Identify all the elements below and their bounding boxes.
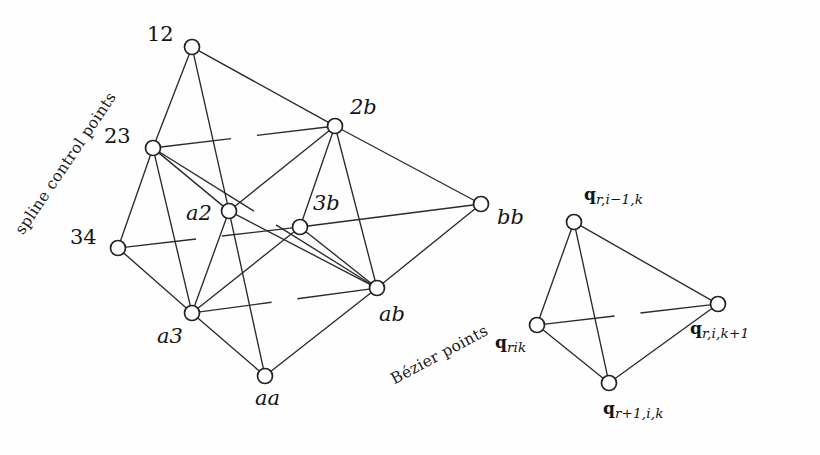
node-a2	[222, 204, 237, 219]
node-label-34: 34	[70, 227, 97, 248]
node-bb	[474, 197, 489, 212]
lbl-q-top: qr,i−1,k	[584, 186, 643, 203]
node-label-a2: a2	[186, 203, 212, 224]
node-12	[185, 40, 200, 55]
node-label-12: 12	[147, 24, 174, 45]
node-ab	[370, 281, 385, 296]
node-label-ab: ab	[379, 304, 405, 325]
lbl-q-bottom: qr+1,i,k	[603, 400, 664, 417]
node-aa	[258, 369, 273, 384]
node-ql	[530, 318, 545, 333]
figure-root: spline control points Bézier points 1223…	[0, 0, 820, 455]
node-label-bb: bb	[497, 207, 524, 228]
node-qb	[602, 376, 617, 391]
node-label-a3: a3	[157, 326, 183, 347]
node-2b	[328, 119, 343, 134]
node-label-aa: aa	[255, 388, 280, 409]
bezier-tetrahedron-nodes	[530, 215, 726, 391]
node-34	[111, 241, 126, 256]
node-label-23: 23	[104, 126, 131, 147]
node-label-2b: 2b	[350, 97, 377, 118]
node-qt	[567, 215, 582, 230]
node-23	[146, 141, 161, 156]
diagram-canvas	[0, 0, 820, 455]
lbl-q-right: qr,i,k+1	[690, 320, 749, 337]
node-3b	[293, 220, 308, 235]
node-label-3b: 3b	[313, 193, 340, 214]
node-qr	[711, 297, 726, 312]
bezier-tetrahedron-edges	[540, 226, 712, 378]
node-a3	[185, 306, 200, 321]
lbl-q-left: qrik	[495, 334, 526, 351]
